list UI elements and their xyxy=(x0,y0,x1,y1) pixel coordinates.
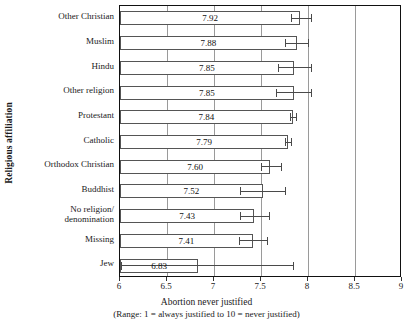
error-bar-cap-high xyxy=(296,113,297,121)
x-axis-subtitle: (Range: 1 = always justified to 10 = nev… xyxy=(0,309,413,320)
error-bar-line xyxy=(291,18,311,19)
error-bar-cap-high xyxy=(281,163,282,171)
bar-value-label: 7.52 xyxy=(173,185,209,197)
x-axis: 66.577.588.59 xyxy=(119,277,401,297)
x-axis-tick-label: 8.5 xyxy=(339,281,369,291)
plot-area: 7.927.887.857.857.847.797.607.527.437.41… xyxy=(119,5,401,277)
category-label: Missing xyxy=(14,235,114,245)
error-bar-cap-high xyxy=(291,138,292,146)
category-label: Buddhist xyxy=(14,185,114,195)
error-bar-line xyxy=(276,92,311,93)
bar-row: 7.52 xyxy=(120,184,402,198)
bar-value-label: 7.84 xyxy=(188,111,224,123)
category-label: Other Christian xyxy=(14,12,114,22)
error-bar-cap-low xyxy=(239,237,240,245)
error-bar-cap-low xyxy=(121,262,122,270)
x-axis-tick-label: 7.5 xyxy=(245,281,275,291)
error-bar-cap-high xyxy=(311,14,312,22)
plot-inner: 7.927.887.857.857.847.797.607.527.437.41… xyxy=(120,6,400,276)
error-bar-line xyxy=(239,240,266,241)
bar-row: 7.92 xyxy=(120,11,402,25)
x-axis-tick-label: 6 xyxy=(104,281,134,291)
x-axis-tick-label: 9 xyxy=(386,281,413,291)
category-label: Catholic xyxy=(14,136,114,146)
category-label: Other religion xyxy=(14,86,114,96)
bar-row: 7.85 xyxy=(120,61,402,75)
category-label: No religion/ denomination xyxy=(14,205,114,224)
error-bar-cap-high xyxy=(269,212,270,220)
error-bar-cap-low xyxy=(285,138,286,146)
bar-row: 7.79 xyxy=(120,135,402,149)
error-bar-line xyxy=(285,43,308,44)
error-bar-cap-low xyxy=(290,113,291,121)
bar-value-label: 6.83 xyxy=(141,260,177,272)
error-bar-cap-low xyxy=(278,64,279,72)
error-bar-cap-high xyxy=(308,39,309,47)
x-axis-tick-label: 7 xyxy=(198,281,228,291)
error-bar-cap-low xyxy=(276,89,277,97)
bar-value-label: 7.79 xyxy=(186,136,222,148)
category-label: Protestant xyxy=(14,111,114,121)
bar-row: 7.84 xyxy=(120,110,402,124)
bar-value-label: 7.92 xyxy=(192,12,228,24)
category-label: Hindu xyxy=(14,62,114,72)
error-bar-cap-high xyxy=(311,64,312,72)
bar-value-label: 7.88 xyxy=(190,37,226,49)
x-axis-tick-label: 8 xyxy=(292,281,322,291)
bar-row: 7.88 xyxy=(120,36,402,50)
error-bar-cap-low xyxy=(285,39,286,47)
error-bar-cap-high xyxy=(311,89,312,97)
category-label-list: Other ChristianMuslimHinduOther religion… xyxy=(16,5,117,277)
chart-container: Religious affiliation Other ChristianMus… xyxy=(0,0,413,328)
bar-value-label: 7.85 xyxy=(189,62,225,74)
bar-row: 7.41 xyxy=(120,234,402,248)
error-bar-cap-low xyxy=(261,163,262,171)
error-bar-line xyxy=(261,166,281,167)
bar-row: 7.43 xyxy=(120,209,402,223)
error-bar-cap-low xyxy=(291,14,292,22)
error-bar-cap-low xyxy=(240,212,241,220)
category-label: Orthodox Christian xyxy=(14,160,114,170)
x-axis-title: Abortion never justified xyxy=(0,297,413,309)
x-axis-tick-label: 6.5 xyxy=(151,281,181,291)
bar-value-label: 7.60 xyxy=(177,161,213,173)
y-axis-title-text: Religious affiliation xyxy=(4,102,14,184)
category-label: Jew xyxy=(14,259,114,269)
bar-row: 7.85 xyxy=(120,86,402,100)
bar-value-label: 7.43 xyxy=(169,210,205,222)
category-label: Muslim xyxy=(14,37,114,47)
bar-row: 6.83 xyxy=(120,259,402,273)
error-bar-cap-high xyxy=(293,262,294,270)
bar-value-label: 7.85 xyxy=(189,87,225,99)
error-bar-cap-low xyxy=(240,187,241,195)
error-bar-line xyxy=(240,216,268,217)
error-bar-cap-high xyxy=(267,237,268,245)
error-bar-line xyxy=(278,67,311,68)
bar-value-label: 7.41 xyxy=(168,235,204,247)
error-bar-cap-high xyxy=(285,187,286,195)
bar-row: 7.60 xyxy=(120,160,402,174)
error-bar-line xyxy=(240,191,285,192)
